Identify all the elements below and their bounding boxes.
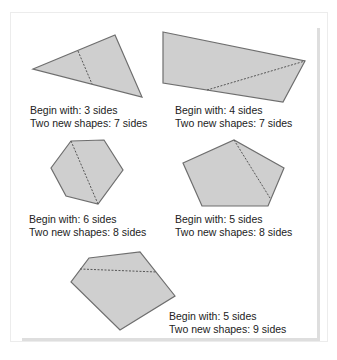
result-sides-label: Two new shapes: 7 sides [175, 117, 292, 130]
begin-sides-label: Begin with: 5 sides [175, 213, 292, 226]
caption-pentagon: Begin with: 5 sides Two new shapes: 8 si… [175, 213, 292, 239]
triangle-shape [33, 35, 142, 97]
caption-quadrilateral: Begin with: 4 sides Two new shapes: 7 si… [175, 104, 292, 130]
caption-triangle: Begin with: 3 sides Two new shapes: 7 si… [30, 104, 147, 130]
begin-sides-label: Begin with: 4 sides [175, 104, 292, 117]
begin-sides-label: Begin with: 6 sides [29, 213, 146, 226]
result-sides-label: Two new shapes: 8 sides [175, 226, 292, 239]
hexagon-shape [51, 140, 123, 204]
shapes-canvas [0, 0, 337, 360]
quadrilateral-shape [163, 32, 305, 102]
pentagon-shape [183, 140, 284, 206]
result-sides-label: Two new shapes: 7 sides [30, 117, 147, 130]
result-sides-label: Two new shapes: 8 sides [29, 226, 146, 239]
irregular-pentagon-shape [71, 252, 175, 330]
begin-sides-label: Begin with: 5 sides [169, 310, 286, 323]
result-sides-label: Two new shapes: 9 sides [169, 323, 286, 336]
begin-sides-label: Begin with: 3 sides [30, 104, 147, 117]
caption-irregular-pentagon: Begin with: 5 sides Two new shapes: 9 si… [169, 310, 286, 336]
caption-hexagon: Begin with: 6 sides Two new shapes: 8 si… [29, 213, 146, 239]
